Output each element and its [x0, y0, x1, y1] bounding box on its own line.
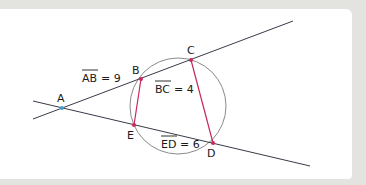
segment-name-ed: ED: [161, 138, 176, 151]
point-a: [60, 106, 64, 110]
label-c: C: [187, 44, 195, 57]
segment-name-bc: BC: [155, 83, 170, 96]
label-b: B: [132, 64, 140, 77]
point-e: [132, 123, 136, 127]
label-a: A: [57, 92, 65, 105]
chord-be: [134, 79, 141, 125]
point-c: [189, 58, 193, 62]
segment-label-ab: AB = 9: [82, 70, 121, 85]
point-b: [139, 77, 143, 81]
secant-diagram: A B C E D AB = 9 BC = 4 ED = 6: [0, 0, 366, 185]
chord-cd: [191, 60, 213, 143]
secant-line-aed: [33, 101, 310, 166]
secant-line-abc: [33, 21, 293, 119]
segment-value-bc: = 4: [174, 83, 194, 96]
segment-value-ab: = 9: [101, 72, 121, 85]
segment-label-bc: BC = 4: [155, 81, 194, 96]
label-d: D: [207, 147, 215, 160]
segment-label-ed: ED = 6: [161, 136, 200, 151]
segment-value-ed: = 6: [180, 138, 200, 151]
segment-name-ab: AB: [82, 72, 97, 85]
label-e: E: [127, 129, 134, 142]
point-d: [211, 141, 215, 145]
